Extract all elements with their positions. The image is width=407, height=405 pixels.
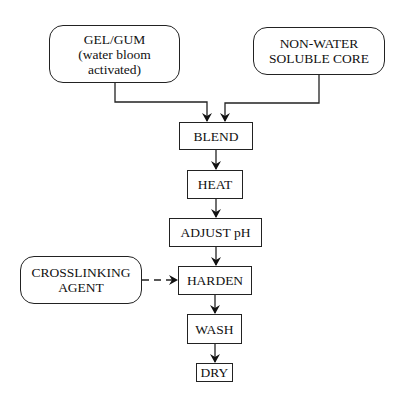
crosslinker-line-2: AGENT: [58, 280, 104, 295]
core-line-2: SOLUBLE CORE: [269, 51, 369, 66]
gel-gum-line-3: activated): [88, 62, 141, 77]
core-line-1: NON-WATER: [280, 36, 359, 51]
step-wash: WASH: [187, 314, 242, 344]
input-crosslinking-agent: CROSSLINKING AGENT: [20, 256, 142, 304]
arrow-core-to-blend: [225, 75, 319, 121]
step-dry: DRY: [196, 363, 233, 382]
gel-gum-line-1: GEL/GUM: [84, 32, 146, 47]
step-harden: HARDEN: [178, 266, 252, 295]
crosslinker-line-1: CROSSLINKING: [31, 265, 130, 280]
step-heat: HEAT: [187, 170, 243, 199]
input-gel-gum: GEL/GUM (water bloom activated): [49, 25, 180, 83]
step-dry-label: DRY: [201, 365, 229, 380]
step-blend-label: BLEND: [194, 129, 239, 144]
step-wash-label: WASH: [195, 322, 233, 337]
step-harden-label: HARDEN: [187, 273, 243, 288]
step-heat-label: HEAT: [198, 177, 233, 192]
gel-gum-line-2: (water bloom: [78, 47, 150, 62]
input-non-water-soluble-core: NON-WATER SOLUBLE CORE: [253, 27, 385, 75]
step-adjust-ph: ADJUST pH: [169, 218, 262, 247]
step-adjust-ph-label: ADJUST pH: [181, 225, 251, 240]
arrow-gel-to-blend: [115, 83, 207, 121]
step-blend: BLEND: [179, 122, 253, 150]
